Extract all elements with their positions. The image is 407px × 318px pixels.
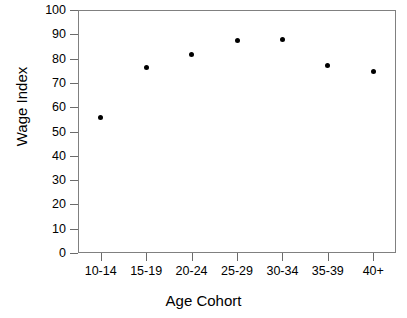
y-axis-tick [70,253,78,254]
y-axis-tick [70,59,78,60]
x-axis-tick [282,253,283,261]
y-axis-tick-label: 100 [45,4,66,17]
y-axis-tick [70,229,78,230]
x-axis-tick-label: 40+ [363,265,384,278]
y-axis-tick-label: 90 [52,28,66,41]
x-axis-tick-label: 15-19 [130,265,162,278]
data-point [98,115,103,120]
y-axis-tick-label: 40 [52,150,66,163]
y-axis-title: Wage Index [13,42,30,172]
data-point [144,65,149,70]
x-axis-title: Age Cohort [0,292,407,309]
y-axis-tick [70,34,78,35]
chart-title [0,0,407,1]
x-axis-tick-label: 25-29 [221,265,253,278]
y-axis-tick-label: 70 [52,77,66,90]
x-axis-tick [101,253,102,261]
y-axis-tick [70,204,78,205]
y-axis-tick [70,83,78,84]
data-point [189,52,194,57]
plot-data-area [78,10,396,253]
y-axis-tick [70,10,78,11]
data-point [325,63,330,68]
y-axis-tick-label: 60 [52,101,66,114]
x-axis-tick-label: 35-39 [312,265,344,278]
data-point [235,38,240,43]
x-axis-tick-label: 30-34 [266,265,298,278]
y-axis-tick-label: 80 [52,53,66,66]
x-axis-tick [373,253,374,261]
y-axis-tick-label: 20 [52,198,66,211]
y-axis-tick [70,156,78,157]
y-axis-tick-label: 30 [52,174,66,187]
y-axis-tick-label: 50 [52,126,66,139]
x-axis-tick-label: 20-24 [176,265,208,278]
data-point [280,37,285,42]
y-axis-tick [70,180,78,181]
y-axis-tick-label: 0 [59,247,66,260]
x-axis-tick [192,253,193,261]
scatter-chart: 0102030405060708090100 Wage Index 10-141… [0,0,407,318]
x-axis-tick [237,253,238,261]
y-axis-tick-label: 10 [52,223,66,236]
x-axis-tick-label: 10-14 [85,265,117,278]
x-axis-tick [146,253,147,261]
data-point [371,69,376,74]
y-axis-tick [70,107,78,108]
y-axis-tick [70,132,78,133]
x-axis-tick [328,253,329,261]
